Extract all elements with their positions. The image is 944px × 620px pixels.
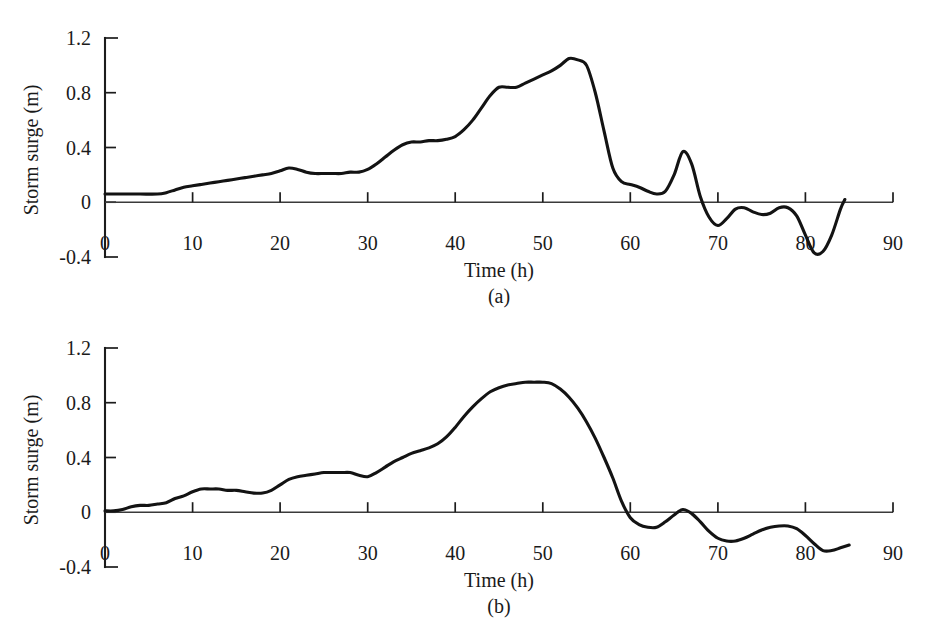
y-tick-label-0: -0.4 (59, 556, 91, 578)
x-tick-label-0: 0 (100, 232, 110, 254)
y-tick-label-4: 1.2 (66, 27, 91, 49)
chart-panel-b: -0.400.40.81.20102030405060708090Time (h… (0, 310, 944, 620)
data-series-0 (105, 58, 845, 254)
x-tick-label-2: 20 (270, 232, 290, 254)
chart-a-plot: -0.400.40.81.20102030405060708090Time (h… (0, 0, 944, 310)
x-tick-label-2: 20 (270, 542, 290, 564)
y-tick-label-0: -0.4 (59, 246, 91, 268)
x-tick-label-6: 60 (620, 232, 640, 254)
y-axis-title: Storm surge (m) (20, 85, 43, 216)
y-tick-label-2: 0.4 (66, 447, 91, 469)
x-tick-label-3: 30 (358, 542, 378, 564)
panel-label: (a) (488, 285, 510, 308)
x-tick-label-9: 90 (883, 542, 903, 564)
panel-label: (b) (487, 595, 510, 618)
x-tick-label-7: 70 (708, 232, 728, 254)
x-tick-label-9: 90 (883, 232, 903, 254)
x-tick-label-7: 70 (708, 542, 728, 564)
y-tick-label-3: 0.8 (66, 82, 91, 104)
y-tick-label-1: 0 (81, 501, 91, 523)
x-tick-label-1: 10 (183, 232, 203, 254)
y-tick-label-1: 0 (81, 191, 91, 213)
x-tick-label-3: 30 (358, 232, 378, 254)
x-tick-label-5: 50 (533, 232, 553, 254)
y-axis-title: Storm surge (m) (20, 395, 43, 526)
data-series-0 (105, 382, 849, 551)
x-axis-title: Time (h) (464, 259, 534, 282)
y-tick-label-3: 0.8 (66, 392, 91, 414)
chart-b-plot: -0.400.40.81.20102030405060708090Time (h… (0, 310, 944, 620)
y-tick-label-2: 0.4 (66, 137, 91, 159)
x-tick-label-6: 60 (620, 542, 640, 564)
x-tick-label-4: 40 (445, 232, 465, 254)
chart-panel-a: -0.400.40.81.20102030405060708090Time (h… (0, 0, 944, 310)
x-tick-label-4: 40 (445, 542, 465, 564)
x-tick-label-0: 0 (100, 542, 110, 564)
x-tick-label-8: 80 (795, 542, 815, 564)
x-tick-label-1: 10 (183, 542, 203, 564)
y-tick-label-4: 1.2 (66, 337, 91, 359)
x-tick-label-5: 50 (533, 542, 553, 564)
storm-surge-figure: -0.400.40.81.20102030405060708090Time (h… (0, 0, 944, 620)
x-axis-title: Time (h) (464, 569, 534, 592)
